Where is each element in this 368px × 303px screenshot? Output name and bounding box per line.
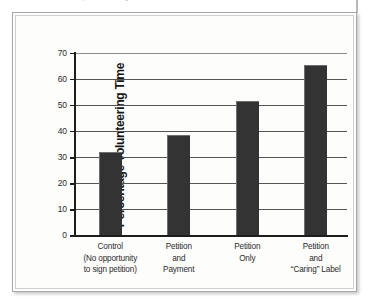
- x-category-label-line: to sign petition): [76, 264, 145, 276]
- y-tick-label-20: 20: [58, 178, 67, 188]
- figure-frame: Percentage Volunteering Time 01020304050…: [12, 12, 357, 292]
- x-category-label-2: PetitionandPayment: [145, 241, 214, 276]
- x-category-label-1: Control(No opportunityto sign petition): [76, 241, 145, 276]
- x-category-label-line: Only: [213, 253, 282, 265]
- x-category-label-4: Petitionand“Caring” Label: [282, 241, 351, 276]
- x-category-label-line: Petition: [145, 241, 214, 253]
- y-axis-line: [74, 52, 76, 237]
- bar-chart-plot-area: Percentage Volunteering Time 01020304050…: [74, 52, 348, 237]
- x-category-label-3: PetitionOnly: [213, 241, 282, 264]
- x-category-label-line: “Caring” Label: [282, 264, 351, 276]
- bar-1: [99, 152, 122, 235]
- bar-4: [304, 65, 327, 236]
- bar-3: [236, 101, 259, 235]
- y-tick-label-10: 10: [58, 204, 67, 214]
- bar-2: [167, 135, 190, 235]
- x-category-label-line: Petition: [213, 241, 282, 253]
- gridline-70: [75, 53, 347, 54]
- x-category-label-line: Control: [76, 241, 145, 253]
- figure-inner-border: Percentage Volunteering Time 01020304050…: [15, 15, 354, 289]
- x-category-label-line: (No opportunity: [76, 253, 145, 265]
- y-tick-label-60: 60: [58, 74, 67, 84]
- y-tick-label-70: 70: [58, 48, 67, 58]
- y-tick-label-50: 50: [58, 100, 67, 110]
- x-axis-line: [74, 235, 348, 237]
- y-tick-label-0: 0: [62, 230, 67, 240]
- y-tick-label-40: 40: [58, 126, 67, 136]
- y-tick-label-30: 30: [58, 152, 67, 162]
- x-category-label-line: Payment: [145, 264, 214, 276]
- cut-off-caption: decision, thereby undermining intrinsic …: [30, 0, 330, 2]
- x-category-label-line: and: [282, 253, 351, 265]
- x-category-label-line: Petition: [282, 241, 351, 253]
- x-category-label-line: and: [145, 253, 214, 265]
